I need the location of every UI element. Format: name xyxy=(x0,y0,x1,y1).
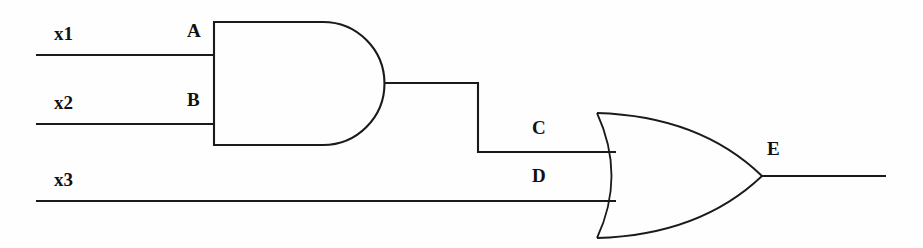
or-gate-back-arc xyxy=(597,113,612,238)
logic-circuit-diagram: x1 x2 x3 A B C D E xyxy=(0,0,923,248)
label-pin-d: D xyxy=(532,166,546,185)
label-pin-e: E xyxy=(767,139,780,158)
circuit-schematic-svg xyxy=(0,0,923,248)
label-pin-a: A xyxy=(187,21,201,40)
label-input-x1: x1 xyxy=(54,24,73,43)
label-pin-b: B xyxy=(187,90,200,109)
label-input-x2: x2 xyxy=(54,93,73,112)
label-input-x3: x3 xyxy=(54,170,73,189)
label-pin-c: C xyxy=(532,118,546,137)
or-gate-top-edge xyxy=(597,113,762,176)
and-gate-body xyxy=(214,22,384,145)
or-gate-bottom-edge xyxy=(597,176,762,238)
wire-and-output-to-or-input-c xyxy=(385,83,616,152)
